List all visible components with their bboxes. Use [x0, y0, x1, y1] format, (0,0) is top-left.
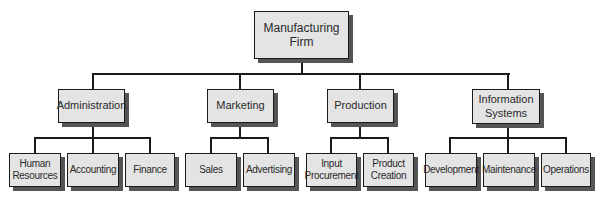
admin-drop-3 — [149, 137, 151, 153]
node-information-systems: Information Systems — [472, 89, 540, 124]
node-label: Sales — [199, 164, 223, 176]
node-label: Development — [423, 164, 479, 176]
node-label: Production — [334, 99, 387, 112]
node-finance: Finance — [125, 153, 175, 187]
node-label-line: Systems — [478, 107, 533, 120]
marketing-drop-1 — [210, 137, 212, 153]
connector-marketing — [239, 73, 241, 89]
node-manufacturing-firm: Manufacturing Firm — [254, 11, 349, 59]
node-label-line: Manufacturing — [263, 21, 339, 35]
admin-drop-1 — [34, 137, 36, 153]
infosys-drop-2 — [507, 137, 509, 153]
infosys-stem — [507, 123, 509, 138]
infosys-drop-1 — [449, 137, 451, 153]
node-label: Finance — [133, 164, 166, 176]
node-label-line: Procurement — [305, 170, 359, 182]
node-label: Marketing — [216, 99, 264, 112]
node-label: Advertising — [246, 164, 292, 176]
node-label-line: Human — [12, 158, 57, 170]
node-input-procurement: Input Procurement — [306, 153, 357, 187]
node-advertising: Advertising — [243, 153, 295, 187]
node-label-line: Creation — [371, 170, 406, 182]
marketing-bus — [210, 137, 269, 139]
node-label: Accounting — [70, 164, 116, 176]
node-label: Administration — [57, 99, 127, 112]
node-administration: Administration — [58, 89, 125, 123]
node-label-line: Product — [371, 158, 406, 170]
node-product-creation: Product Creation — [363, 153, 414, 187]
marketing-stem — [239, 122, 241, 138]
admin-stem — [92, 122, 94, 138]
node-accounting: Accounting — [67, 153, 119, 187]
node-marketing: Marketing — [207, 89, 274, 123]
node-label-line: Information — [478, 93, 533, 106]
node-label-line: Resources — [12, 170, 57, 182]
connector-information-systems — [507, 73, 509, 89]
node-label-line: Firm — [263, 35, 339, 49]
department-bus — [92, 73, 510, 75]
production-stem — [359, 122, 361, 138]
node-development: Development — [425, 153, 477, 187]
node-label: Operations — [543, 164, 589, 176]
admin-drop-2 — [92, 137, 94, 153]
production-drop-1 — [330, 137, 332, 153]
node-label-line: Input — [305, 158, 359, 170]
connector-administration — [92, 73, 94, 89]
marketing-drop-2 — [267, 137, 269, 153]
production-drop-2 — [387, 137, 389, 153]
infosys-drop-3 — [565, 137, 567, 153]
node-label: Maintenance — [482, 164, 536, 176]
node-operations: Operations — [541, 153, 591, 187]
node-maintenance: Maintenance — [483, 153, 535, 187]
production-bus — [330, 137, 389, 139]
connector-production — [359, 73, 361, 89]
node-human-resources: Human Resources — [9, 153, 61, 187]
node-sales: Sales — [185, 153, 237, 187]
node-production: Production — [327, 89, 394, 123]
